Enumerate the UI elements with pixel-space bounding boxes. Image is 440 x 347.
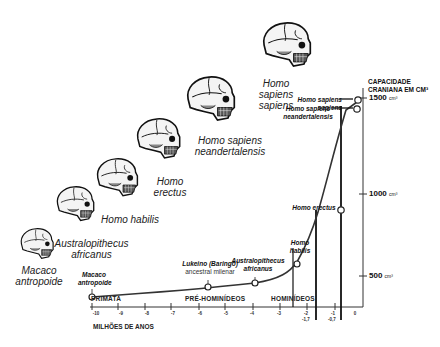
tick-unit: cm³ [385, 273, 393, 279]
skull-label-neandertal: Homo sapiens neandertalensis [190, 135, 270, 157]
label-line: Homo sapiens [190, 135, 270, 146]
x-tick: -6 [198, 311, 202, 316]
y-tick-1500: 1500 cm³ [369, 93, 397, 102]
label-line: CAPACIDADE [368, 78, 428, 86]
x-tick: -10 [93, 311, 100, 316]
skull-habilis-icon [98, 159, 138, 196]
skull-sapiens-icon [264, 23, 311, 66]
tick-value: 500 [369, 271, 382, 280]
tick-unit: cm³ [389, 95, 397, 101]
point-label-hsn: Homo sapiens neandertalensis [282, 105, 334, 120]
region-pre-hominideos: PRÉ-HOMINÍDEOS [185, 295, 245, 302]
skull-australopithecus-icon [57, 187, 93, 221]
x-axis-title: MILHÕES DE ANOS [93, 323, 154, 330]
label-line: Homo erectus [140, 176, 200, 198]
y-axis [359, 88, 367, 307]
label-line: Australopithecus [54, 238, 129, 249]
x-axis [90, 303, 363, 310]
y-axis-title: CAPACIDADE CRANIANA EM CM³ [368, 78, 428, 93]
label-line: africanus [54, 249, 129, 260]
x-tick: -3 [277, 311, 281, 316]
skull-macaco-icon [21, 229, 53, 259]
x-mark-1-7: -1,7 [302, 317, 310, 322]
x-tick: -1 [331, 311, 335, 316]
skull-label-australopithecus: Australopithecus africanus [54, 238, 129, 260]
skull-erectus-icon [138, 119, 180, 158]
point-label-macaco: Macaco antropoide [78, 271, 110, 286]
label-line: Macaco [14, 265, 64, 276]
x-tick: -8 [145, 311, 149, 316]
y-tick-500: 500 cm³ [369, 271, 393, 280]
x-tick: -2 [304, 311, 308, 316]
tick-value: 1500 [369, 93, 387, 102]
label-line: antropoide [14, 276, 64, 287]
x-tick: -5 [224, 311, 228, 316]
point-label-habilis: Homo habilis [280, 239, 320, 254]
x-tick: -4 [250, 311, 254, 316]
x-tick: 0 [354, 311, 357, 316]
label-line: neandertalensis [190, 146, 270, 157]
label-line: Macaco [78, 271, 110, 279]
label-line: africanus [230, 265, 286, 273]
skull-neandertal-icon [188, 77, 235, 120]
skull-label-erectus: Homo erectus [140, 176, 200, 198]
x-tick: -9 [119, 311, 123, 316]
tick-unit: cm³ [389, 191, 397, 197]
label-line: CRANIANA EM CM³ [368, 86, 428, 94]
point-label-australopithecus: Australopithecus africanus [230, 257, 286, 272]
x-tick: -7 [171, 311, 175, 316]
y-tick-1000: 1000 cm³ [369, 189, 397, 198]
skull-label-habilis: Homo habilis [100, 214, 160, 225]
region-hominideos: HOMINÍDEOS [271, 295, 315, 302]
label-line: Homo habilis [100, 214, 160, 225]
label-line: Homo erectus [292, 204, 336, 212]
label-line: antropoide [78, 279, 110, 287]
label-line: Homo habilis [280, 239, 320, 254]
tick-value: 1000 [369, 189, 387, 198]
label-line: neandertalensis [282, 113, 334, 121]
point-label-erectus: Homo erectus [292, 204, 336, 212]
label-line: Homo sapiens [282, 105, 334, 113]
label-line: Australopithecus [230, 257, 286, 265]
skull-label-macaco: Macaco antropoide [14, 265, 64, 287]
x-mark-0-7: -0,7 [328, 317, 336, 322]
region-primata: PRIMATA [91, 295, 121, 302]
